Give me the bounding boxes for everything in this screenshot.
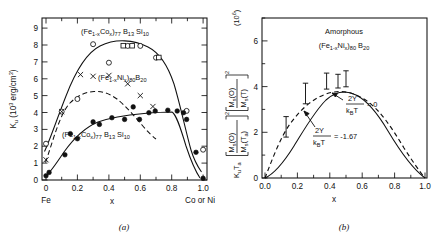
panel-a-xtick-0: 0: [44, 184, 49, 193]
panel-a-ylab-p1: (10: [9, 105, 18, 120]
panel-a-x-left-label: Fe: [41, 196, 51, 205]
panel-b-x-ticks: 0.0 0.2 0.4 0.6 0.8 1.0: [259, 173, 431, 192]
panel-b-ann-dashed-value: = -1.67: [334, 132, 357, 141]
panel-b-y-ticks: 0 2 4 6: [253, 18, 267, 183]
panel-a-xtick-1: 0.2: [72, 184, 84, 193]
panel-b-title-line2: (Fe1-xNix)80 B20: [319, 41, 370, 51]
svg-text:2: 2: [224, 71, 230, 74]
panel-b-ytick-6: 6: [253, 37, 258, 46]
panel-a-ytick-8: 8: [33, 41, 38, 50]
panel-b-annotation-dashed: 2Y kBT = -1.67: [304, 111, 357, 148]
panel-a-x-label: x: [110, 197, 114, 206]
panel-a-curve-filled-circle: [45, 112, 200, 178]
svg-text:Ms(T): Ms(T): [239, 89, 249, 107]
panel-b-xtick-1: 0.2: [292, 182, 304, 191]
panel-a-xtick-4: 0.8: [166, 184, 178, 193]
panel-b-xtick-0: 0.0: [259, 182, 271, 191]
panel-a-xtick-2: 0.4: [103, 184, 115, 193]
panel-a-ytick-0: 0: [33, 176, 38, 185]
panel-a-xtick-3: 0.6: [135, 184, 147, 193]
svg-text:Ms(Ta): Ms(Ta): [239, 131, 249, 153]
panel-b-ann-dashed-num: 2Y: [315, 126, 324, 135]
panel-a-ytick-4: 4: [33, 109, 38, 118]
panel-b-xtick-5: 1.0: [419, 182, 431, 191]
panel-b-ytick-2: 2: [253, 128, 258, 137]
panel-b-ann-solid-num: 2Y: [348, 94, 357, 103]
panel-a-y-label: Ku (103 erg/cm3): [8, 69, 19, 128]
panel-b-ann-solid-value: = 0: [367, 100, 377, 109]
panel-a-y-ticks: 0 1 2 3 4 5 6 7 8 9: [33, 24, 207, 185]
panel-b-ytick-0: 0: [253, 174, 258, 183]
panel-a-label-feni-mid: (Fe1-xNix)80B20: [98, 73, 147, 83]
panel-a-curve-cross-dashed: [46, 91, 157, 162]
panel-b-ann-solid-den: kBT: [346, 106, 358, 116]
error-bar-point: [335, 74, 340, 88]
panel-b-ylab-prefix: KuTa: [232, 161, 242, 178]
error-bar-point: [303, 83, 308, 104]
panel-a-sublabel: (a): [119, 222, 130, 232]
panel-b-annotation-solid: 2Y kBT = 0: [332, 93, 377, 116]
panel-a-ytick-3: 3: [33, 125, 38, 134]
panel-b-ylab-bracket2: Ms(O) Ms(T) 2: [224, 71, 249, 111]
panel-b-title-line1: Amorphous: [325, 27, 363, 36]
panel-a-label-feco-bot: (Fe1-xCox)77 B13 Si10: [62, 130, 130, 140]
panel-b-ann-dashed-den: kBT: [313, 138, 325, 148]
panel-b-ytick-4: 4: [253, 83, 258, 92]
panel-b-xtick-2: 0.4: [324, 182, 336, 191]
panel-b-ylab-unit: (106): [231, 10, 241, 26]
panel-a-ytick-5: 5: [33, 92, 38, 101]
panel-a-label-feco-top: (Fe1-xCox)77 B13 Si10: [81, 27, 149, 37]
svg-text:Ms(O): Ms(O): [227, 133, 237, 153]
panel-a-ytick-6: 6: [33, 75, 38, 84]
panel-a-curve-open-circle: [45, 41, 202, 172]
panel-a-ytick-1: 1: [33, 159, 38, 168]
svg-text:Ms(O): Ms(O): [227, 88, 237, 108]
panel-b-xtick-3: 0.6: [357, 182, 369, 191]
panel-b-y-label: KuTa Ms(O) Ms(Ta) 2 Ms(O): [224, 10, 249, 178]
panel-a-ytick-7: 7: [33, 58, 38, 67]
error-bar-point: [343, 71, 348, 87]
panel-b: 0 2 4 6 0.0: [222, 0, 443, 245]
error-bar-point: [324, 73, 329, 89]
panel-b-x-label: x: [332, 195, 336, 204]
panel-a-svg: 0 1 2 3 4 5 6 7 8 9: [0, 0, 222, 245]
svg-text:2: 2: [224, 112, 230, 115]
panel-a-ylab-tail: erg/cm: [9, 75, 18, 102]
svg-text:Ku (103 erg/cm3): Ku (103 erg/cm3): [8, 69, 19, 128]
panel-a-ytick-2: 2: [33, 142, 38, 151]
panel-b-xtick-4: 0.8: [389, 182, 401, 191]
panel-a-xtick-5: 1.0: [197, 184, 209, 193]
panel-b-ylab-bracket1: Ms(O) Ms(Ta) 2: [224, 112, 249, 156]
panel-a-ytick-9: 9: [33, 24, 38, 33]
panel-a-x-right-label: Co or Ni: [185, 196, 215, 205]
panel-a: 0 1 2 3 4 5 6 7 8 9: [0, 0, 222, 245]
figure-container: 0 1 2 3 4 5 6 7 8 9: [0, 0, 443, 245]
panel-b-svg: 0 2 4 6 0.0: [222, 0, 443, 245]
panel-a-ylab-p2: ): [9, 69, 18, 72]
panel-b-sublabel: (b): [339, 222, 350, 232]
